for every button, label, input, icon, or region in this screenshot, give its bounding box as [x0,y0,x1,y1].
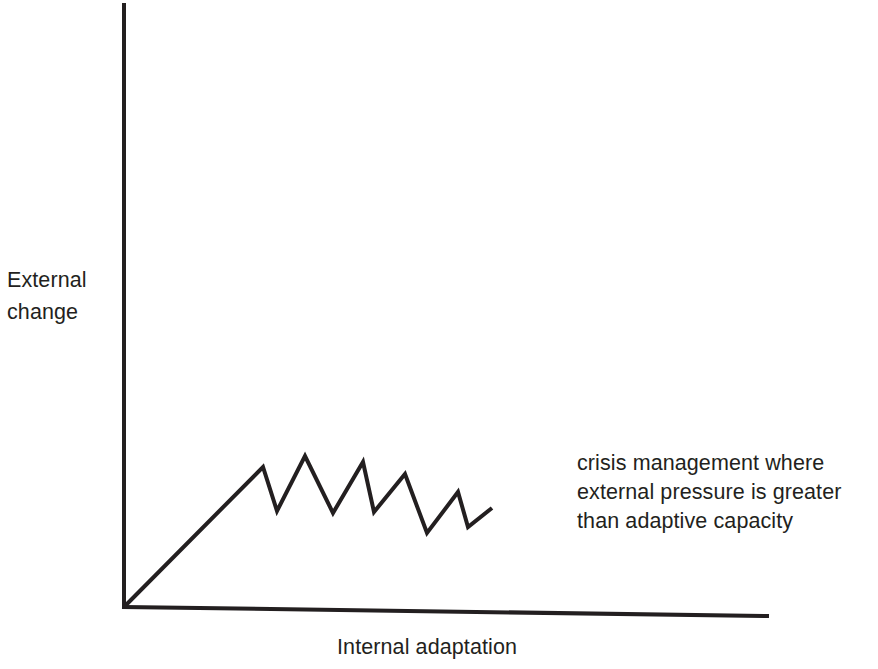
data-line-external-change [124,456,492,607]
diagram-canvas: Externalchange Internal adaptation crisi… [0,0,878,669]
chart-annotation-line3: than adaptive capacity [577,507,842,536]
data-series-group [124,456,492,607]
y-axis-label-line2: change [7,296,87,328]
x-axis-line [124,607,767,616]
chart-svg [0,0,878,669]
y-axis-label-line1: External [7,268,87,292]
y-axis-label: Externalchange [7,264,87,328]
x-axis-label: Internal adaptation [337,634,517,661]
chart-annotation: crisis management whereexternal pressure… [577,449,842,536]
chart-annotation-line1: crisis management where [577,449,842,478]
chart-annotation-line2: external pressure is greater [577,478,842,507]
